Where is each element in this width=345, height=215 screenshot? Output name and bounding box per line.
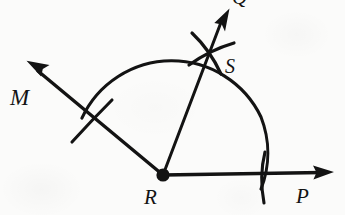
ray-RQ-arrowhead — [214, 9, 229, 32]
label-P: P — [296, 186, 309, 207]
vertex-point-R — [156, 168, 169, 181]
label-M: M — [10, 86, 29, 109]
geometry-figure: M S R P Q — [0, 0, 345, 215]
ray-RP-line — [163, 173, 322, 176]
label-S: S — [225, 56, 235, 76]
ray-RQ-line — [163, 21, 222, 175]
ray-RQ-bisector — [163, 9, 230, 176]
label-R: R — [144, 187, 157, 208]
ray-RM-arrowhead — [27, 61, 50, 77]
label-Q: Q — [232, 0, 247, 8]
main-arc-path — [82, 61, 268, 189]
ray-RP — [163, 166, 334, 180]
geometry-canvas — [0, 0, 345, 215]
ray-RM-line — [38, 71, 163, 175]
main-arc — [82, 61, 268, 189]
